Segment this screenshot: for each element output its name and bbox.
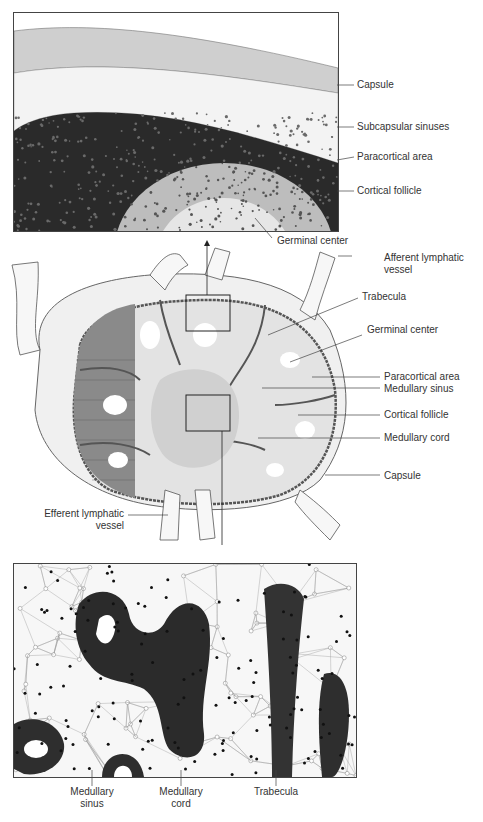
label-capsule-middle: Capsule [384,470,421,482]
label-paracortical-area-top: Paracortical area [357,151,433,163]
label-paracortical-area-middle: Paracortical area [384,371,460,383]
label-cortical-follicle-top: Cortical follicle [357,185,421,197]
label-efferent-lymphatic-vessel: Efferent lymphatic vessel [20,508,124,532]
medulla-detail-panel [13,563,357,778]
label-subcapsular-sinuses: Subcapsular sinuses [357,121,449,133]
label-medullary-sinus-bottom: Medullary sinus [62,786,122,810]
label-germinal-center-middle: Germinal center [367,324,438,336]
label-afferent-lymphatic-vessel: Afferent lymphatic vessel [384,252,464,276]
label-cortical-follicle-middle: Cortical follicle [384,409,448,421]
label-medullary-cord-bottom: Medullary cord [151,786,211,810]
label-medullary-cord-middle: Medullary cord [384,432,450,444]
label-trabecula-bottom: Trabecula [246,786,306,798]
medulla-histology-illustration [14,564,356,777]
label-trabecula-middle: Trabecula [362,291,406,303]
label-capsule-top: Capsule [357,79,394,91]
label-medullary-sinus-middle: Medullary sinus [384,383,453,395]
lymph-node-overview [0,240,483,550]
arrow-up-icon [204,240,210,246]
medulla [151,369,239,467]
